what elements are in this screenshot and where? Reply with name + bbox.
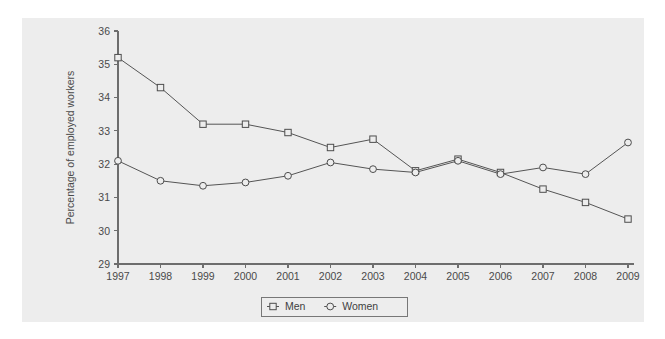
data-point-women-2008 bbox=[582, 171, 589, 178]
y-tick-label: 34 bbox=[98, 91, 110, 103]
data-point-women-2006 bbox=[497, 171, 504, 178]
data-point-men-2007 bbox=[540, 186, 546, 192]
data-point-women-2004 bbox=[412, 169, 419, 176]
y-tick-label: 35 bbox=[98, 58, 110, 70]
x-tick-label: 2008 bbox=[574, 270, 598, 282]
x-tick-label: 2007 bbox=[531, 270, 555, 282]
x-tick-label: 2000 bbox=[234, 270, 258, 282]
data-point-men-1999 bbox=[200, 121, 206, 127]
y-tick-label: 33 bbox=[98, 125, 110, 137]
series-women bbox=[115, 139, 632, 189]
line-chart: 2930313233343536199719981999200020012002… bbox=[0, 0, 665, 339]
x-tick-label: 2006 bbox=[489, 270, 513, 282]
x-tick-label: 2002 bbox=[319, 270, 343, 282]
chart-figure: 2930313233343536199719981999200020012002… bbox=[0, 0, 665, 339]
x-tick-label: 2001 bbox=[276, 270, 300, 282]
chart-legend: MenWomen bbox=[261, 297, 407, 316]
data-point-men-1998 bbox=[157, 84, 163, 90]
data-point-women-2000 bbox=[242, 179, 249, 186]
data-point-women-1997 bbox=[115, 157, 122, 164]
x-tick-label: 2004 bbox=[404, 270, 428, 282]
data-point-women-2002 bbox=[327, 159, 334, 166]
data-point-women-2003 bbox=[370, 166, 377, 173]
x-tick-label: 1999 bbox=[191, 270, 215, 282]
legend-label-men: Men bbox=[285, 300, 306, 312]
legend-label-women: Women bbox=[342, 300, 378, 312]
series-men bbox=[115, 54, 631, 222]
data-point-men-2001 bbox=[285, 129, 291, 135]
data-point-women-1998 bbox=[157, 177, 164, 184]
x-tick-label: 1997 bbox=[106, 270, 130, 282]
x-tick-label: 1998 bbox=[149, 270, 173, 282]
y-tick-label: 30 bbox=[98, 225, 110, 237]
legend-marker-men bbox=[270, 303, 276, 309]
data-point-men-2000 bbox=[242, 121, 248, 127]
x-tick-label: 2005 bbox=[446, 270, 470, 282]
y-tick-label: 36 bbox=[98, 25, 110, 37]
data-point-men-1997 bbox=[115, 54, 121, 60]
data-point-women-2009 bbox=[625, 139, 632, 146]
data-point-women-2001 bbox=[285, 172, 292, 179]
data-point-women-2005 bbox=[455, 157, 462, 164]
data-point-women-2007 bbox=[540, 164, 547, 171]
data-point-men-2003 bbox=[370, 136, 376, 142]
data-point-women-1999 bbox=[200, 182, 207, 189]
data-point-men-2002 bbox=[327, 144, 333, 150]
data-point-men-2009 bbox=[625, 216, 631, 222]
x-tick-label: 2003 bbox=[361, 270, 385, 282]
x-tick-label: 2009 bbox=[616, 270, 640, 282]
legend-marker-women bbox=[327, 303, 334, 310]
y-tick-label: 32 bbox=[98, 158, 110, 170]
y-axis-title: Percentage of employed workers bbox=[64, 71, 76, 225]
y-tick-label: 29 bbox=[98, 258, 110, 270]
series-line-women bbox=[118, 143, 628, 186]
y-tick-label: 31 bbox=[98, 191, 110, 203]
data-point-men-2008 bbox=[582, 199, 588, 205]
